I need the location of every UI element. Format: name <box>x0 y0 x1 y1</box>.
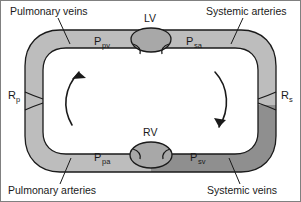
p-pa-symbol: P <box>94 151 101 163</box>
p-pv-subscript: pv <box>102 41 110 50</box>
circulation-diagram: Pulmonary veins Systemic arteries Pulmon… <box>0 0 301 202</box>
label-lv: LV <box>144 12 156 24</box>
r-s-symbol: R <box>281 89 289 101</box>
r-p-subscript: p <box>16 95 20 104</box>
p-sa-subscript: sa <box>194 41 203 50</box>
p-pv-symbol: P <box>94 35 101 47</box>
rv-body <box>130 142 172 168</box>
label-systemic-arteries: Systemic arteries <box>206 5 287 17</box>
label-pulmonary-arteries: Pulmonary arteries <box>8 184 96 196</box>
r-p-symbol: R <box>8 89 16 101</box>
p-sv-subscript: sv <box>198 157 206 166</box>
diagram-canvas: Pulmonary veins Systemic arteries Pulmon… <box>0 0 301 202</box>
p-sv-symbol: P <box>190 151 197 163</box>
p-pa-subscript: pa <box>102 157 111 166</box>
p-sa-symbol: P <box>186 35 193 47</box>
label-rv: RV <box>143 126 157 138</box>
label-pulmonary-veins: Pulmonary veins <box>10 5 88 17</box>
label-systemic-veins: Systemic veins <box>207 184 277 196</box>
lv-body <box>131 28 171 52</box>
chamber-rv <box>130 142 172 168</box>
r-s-subscript: s <box>289 95 293 104</box>
